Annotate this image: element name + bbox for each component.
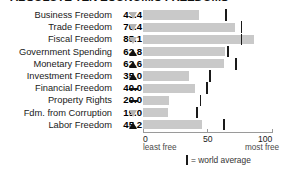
axis-sublabel-most-free: most free: [245, 143, 279, 152]
legend: = world average: [186, 154, 251, 166]
axis-labels: 0 50 100 least free most free: [0, 0, 284, 171]
economic-freedoms-chart: ABSOLUTE TEN ECONOMIC FREEDOMS Business …: [0, 0, 284, 171]
legend-label: = world average: [191, 155, 251, 165]
axis-sublabel-least-free: least free: [143, 143, 177, 152]
axis-label-mid: 50: [203, 134, 213, 144]
world-average-tick-icon: [186, 155, 188, 165]
